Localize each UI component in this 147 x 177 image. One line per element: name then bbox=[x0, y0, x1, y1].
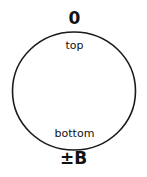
top-position-label: top bbox=[1, 40, 147, 51]
bottom-value-label: ±B bbox=[0, 150, 147, 167]
top-value-label: 0 bbox=[1, 10, 147, 27]
bottom-position-label: bottom bbox=[1, 128, 147, 139]
